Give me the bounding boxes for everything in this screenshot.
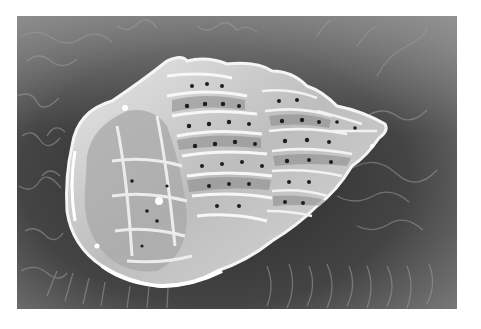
- page: [0, 0, 481, 329]
- sem-micrograph: [17, 16, 457, 309]
- micrograph-illustration: [17, 16, 457, 309]
